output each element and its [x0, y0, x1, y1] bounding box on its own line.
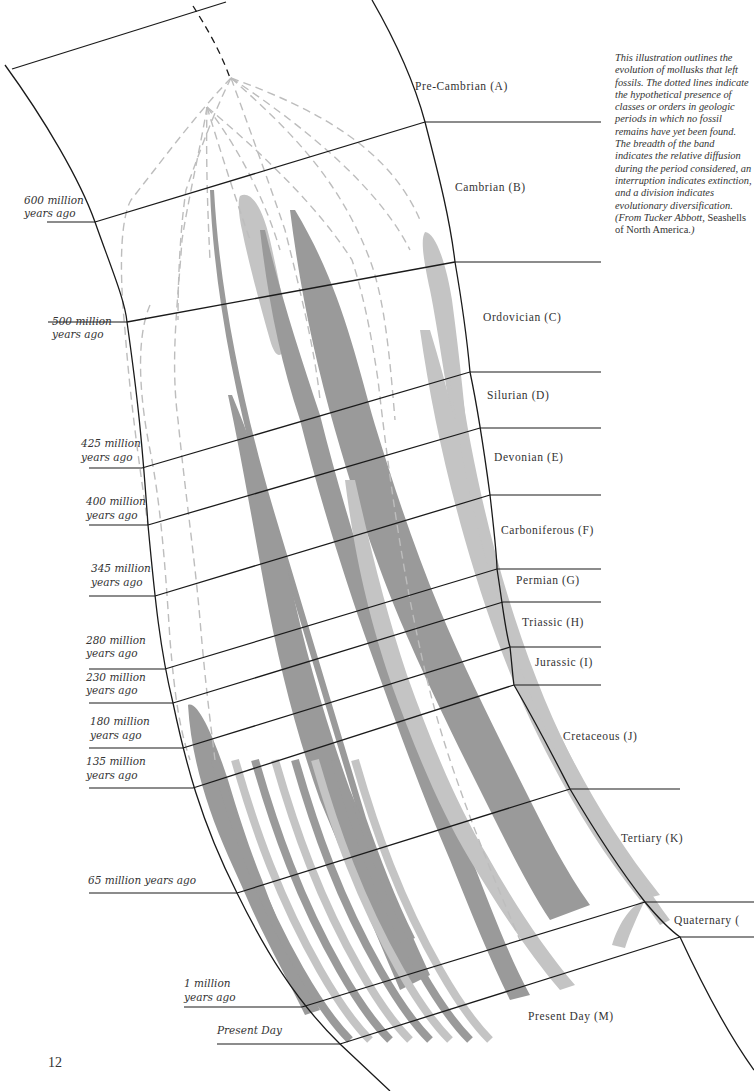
- age-label-180-sub: years ago: [89, 729, 141, 741]
- age-label-600-sub: years ago: [23, 207, 75, 219]
- period-label-tertiary: Tertiary (K): [621, 832, 683, 845]
- caption-text: This illustration outlines the evolution…: [615, 52, 752, 211]
- period-label-permian: Permian (G): [516, 574, 580, 587]
- dashed-lineage-12: [141, 305, 190, 760]
- period-label-cambrian: Cambrian (B): [455, 181, 526, 194]
- age-label-180: 180 million: [90, 715, 150, 727]
- age-label-400: 400 million: [85, 495, 146, 507]
- period-label-jurassic: Jurassic (I): [535, 656, 593, 669]
- age-label-500-sub: years ago: [51, 328, 103, 340]
- age-label-1: 1 million: [184, 977, 231, 989]
- age-label-600: 600 million: [24, 194, 84, 206]
- age-label-230: 230 million: [85, 671, 146, 683]
- boundary-345-slant: [155, 495, 490, 596]
- age-label-280-sub: years ago: [85, 647, 137, 659]
- age-label-present: Present Day: [216, 1024, 283, 1036]
- page-number: 12: [48, 1055, 62, 1070]
- caption-source-suffix: ): [691, 224, 694, 235]
- period-label-cretaceous: Cretaceous (J): [563, 730, 638, 743]
- age-label-425-sub: years ago: [80, 451, 132, 463]
- period-label-present-day: Present Day (M): [528, 1010, 614, 1023]
- period-label-ordovician: Ordovician (C): [483, 311, 561, 324]
- period-label-quaternary: Quaternary (: [674, 914, 740, 927]
- period-label-carboniferous: Carboniferous (F): [501, 524, 594, 537]
- age-label-65: 65 million years ago: [88, 874, 196, 886]
- boundary-600-slant: [95, 122, 425, 222]
- boundary-500-slant: [127, 262, 455, 322]
- dashed-lineage-3: [175, 107, 215, 760]
- age-label-345-sub: years ago: [90, 576, 142, 588]
- age-label-1-sub: years ago: [183, 991, 235, 1003]
- age-label-230-sub: years ago: [85, 684, 137, 696]
- period-label-silurian: Silurian (D): [487, 389, 549, 402]
- age-label-400-sub: years ago: [85, 509, 137, 521]
- period-label-devonian: Devonian (E): [494, 451, 563, 464]
- caption-source-prefix: (From Tucker Abbott,: [615, 212, 705, 223]
- period-label-triassic: Triassic (H): [522, 616, 584, 629]
- age-label-135-sub: years ago: [85, 769, 137, 781]
- age-label-345: 345 million: [91, 562, 151, 574]
- period-label-pre-cambrian: Pre-Cambrian (A): [415, 80, 508, 93]
- age-label-425: 425 million: [80, 437, 141, 449]
- caption: This illustration outlines the evolution…: [615, 52, 753, 236]
- age-label-500: 500 million: [52, 315, 112, 327]
- age-label-135: 135 million: [86, 755, 146, 767]
- age-label-280: 280 million: [85, 634, 146, 646]
